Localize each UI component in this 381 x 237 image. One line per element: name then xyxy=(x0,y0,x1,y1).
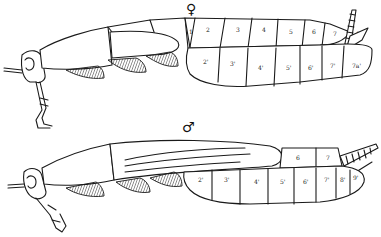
tergite-label: 6 xyxy=(296,154,300,161)
sternite-label: 7' xyxy=(330,62,336,69)
sternite-label: 2' xyxy=(198,176,204,183)
tergite-label: 4 xyxy=(262,26,266,33)
male-tergites xyxy=(280,148,342,168)
sternite-label: 5' xyxy=(280,178,286,185)
female-segment-a xyxy=(40,27,112,69)
female-symbol: ♀ xyxy=(186,1,196,17)
sternite-label: 8' xyxy=(340,176,346,183)
sternite-label: 7' xyxy=(324,176,330,183)
sternite-label: 4' xyxy=(254,178,260,185)
female-figure: ♀ 1 2 3 4 5 6 7 10 xyxy=(4,1,372,128)
male-symbol: ♂ xyxy=(182,119,195,135)
tergite-label: 1 xyxy=(189,28,193,35)
tergite-label: 7 xyxy=(333,30,337,37)
sternite-label: 3' xyxy=(230,60,236,67)
tergite-label: 3 xyxy=(236,26,240,33)
sternite-label: 7a' xyxy=(352,62,361,69)
tergite-label: 2 xyxy=(206,26,210,33)
tergite-label: 5 xyxy=(289,28,293,35)
insect-abdomen-diagram: ♀ 1 2 3 4 5 6 7 10 xyxy=(0,0,381,237)
sternite-label: 6' xyxy=(303,178,309,185)
tergite-label: 7 xyxy=(326,154,330,161)
sternite-label: 6' xyxy=(308,64,314,71)
sternite-label: 9' xyxy=(353,174,359,181)
female-tergites xyxy=(185,18,350,48)
tergite-label: 6 xyxy=(312,28,316,35)
sternite-label: 3' xyxy=(224,176,230,183)
male-sternites xyxy=(184,166,365,204)
male-segment-a xyxy=(42,144,114,185)
sternite-label: 2' xyxy=(203,58,209,65)
male-figure: ♂ 6 7 2' xyxy=(8,119,378,232)
sternite-label: 5' xyxy=(286,64,292,71)
sternite-label: 4' xyxy=(258,64,264,71)
